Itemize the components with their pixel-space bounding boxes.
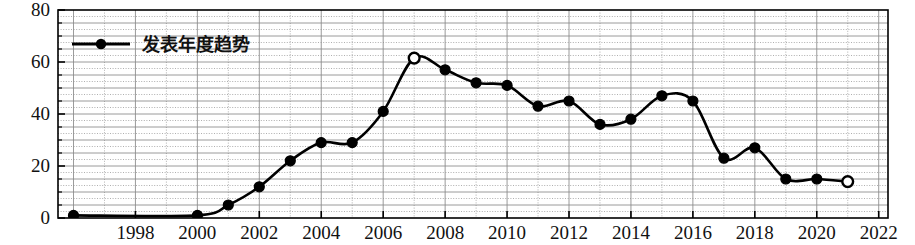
data-point [471, 78, 481, 88]
data-point [440, 65, 450, 75]
chart-background [0, 0, 915, 245]
chart-canvas: 发表年度趋势 [0, 0, 915, 245]
legend-marker-swatch [96, 39, 106, 49]
x-tick-label: 2016 [663, 222, 723, 244]
x-tick-label: 2002 [229, 222, 289, 244]
data-point [812, 174, 822, 184]
x-tick-label: 2018 [725, 222, 785, 244]
x-tick-label: 2006 [353, 222, 413, 244]
data-point [595, 119, 605, 129]
data-point [781, 174, 791, 184]
data-point [657, 91, 667, 101]
x-tick-label: 2004 [291, 222, 351, 244]
data-point [285, 156, 295, 166]
y-tick-label: 20 [10, 155, 50, 177]
data-point [688, 96, 698, 106]
data-point [564, 96, 574, 106]
x-tick-label: 1998 [105, 222, 165, 244]
y-tick-label: 0 [10, 207, 50, 229]
y-tick-label: 60 [10, 51, 50, 73]
x-tick-label: 2022 [849, 222, 909, 244]
data-point [502, 80, 512, 90]
x-tick-label: 2012 [539, 222, 599, 244]
data-point [316, 138, 326, 148]
y-tick-label: 80 [10, 0, 50, 21]
data-point [409, 53, 420, 64]
data-point [842, 176, 853, 187]
data-point [254, 182, 264, 192]
x-tick-label: 2008 [415, 222, 475, 244]
legend-label: 发表年度趋势 [141, 34, 250, 55]
data-point [626, 114, 636, 124]
y-tick-label: 40 [10, 103, 50, 125]
publication-trend-chart: 发文量（篇） 发表年度趋势 020406080 1998200020022004… [0, 0, 915, 245]
data-point [719, 153, 729, 163]
data-point [223, 200, 233, 210]
x-tick-label: 2010 [477, 222, 537, 244]
x-tick-label: 2000 [167, 222, 227, 244]
data-point [750, 143, 760, 153]
data-point [378, 106, 388, 116]
x-tick-label: 2020 [787, 222, 847, 244]
data-point [347, 138, 357, 148]
x-tick-label: 2014 [601, 222, 661, 244]
data-point [533, 101, 543, 111]
